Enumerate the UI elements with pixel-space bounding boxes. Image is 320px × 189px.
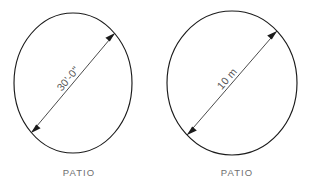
figure-patio-imperial: 30'-0" PATIO [14,13,132,178]
arrowhead-start-icon [187,127,197,135]
figure-patio-metric: 10 m PATIO [167,11,297,178]
arrowhead-start-icon [31,125,41,134]
diagram-canvas: 30'-0" PATIO 10 m PATIO [0,0,320,189]
patio-caption: PATIO [63,167,96,178]
patio-caption: PATIO [221,167,254,178]
arrowhead-end-icon [105,33,115,42]
diameter-dimension-line [187,31,277,135]
diameter-dimension-line [31,33,115,133]
arrowhead-end-icon [267,31,277,39]
patio-diagram: 30'-0" PATIO 10 m PATIO [0,0,320,189]
